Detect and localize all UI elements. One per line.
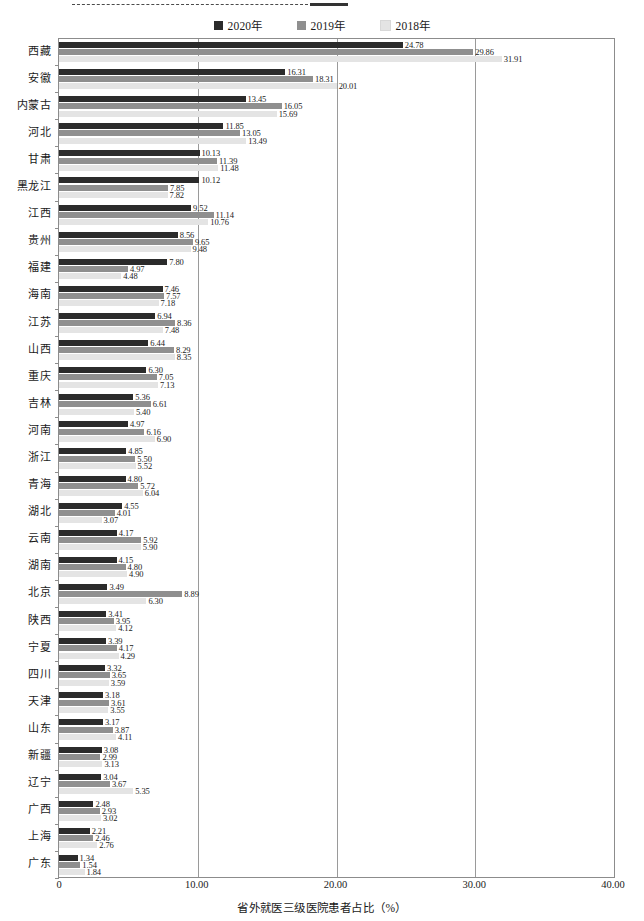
bar-value-label: 9.48 [193, 245, 207, 254]
y-axis-labels: 西藏安徽内蒙古河北甘肃黑龙江江西贵州福建海南江苏山西重庆吉林河南浙江青海湖北云南… [0, 38, 55, 878]
bar-内蒙古-2019年 [59, 103, 282, 109]
bar-贵州-2019年 [59, 239, 193, 245]
bar-value-label: 15.69 [279, 110, 298, 119]
y-axis-label-广西: 广西 [28, 804, 51, 815]
bar-浙江-2020年 [59, 448, 126, 454]
bar-陕西-2019年 [59, 618, 114, 624]
bar-新疆-2019年 [59, 754, 100, 760]
table-row: 3.082.993.13 [59, 744, 614, 771]
legend-label: 2019年 [311, 17, 346, 33]
bar-value-label: 10.12 [201, 176, 220, 185]
legend-item-2020年: 2020年 [214, 17, 263, 33]
bar-西藏-2018年 [59, 56, 502, 62]
x-axis-tick-label: 20.00 [324, 879, 348, 890]
bar-浙江-2019年 [59, 456, 135, 462]
x-axis-tick-label: 0 [56, 879, 61, 890]
bar-内蒙古-2020年 [59, 96, 246, 102]
bar-辽宁-2018年 [59, 788, 133, 794]
table-row: 7.467.577.18 [59, 283, 614, 310]
y-axis-label-四川: 四川 [28, 669, 51, 680]
table-row: 2.482.933.02 [59, 798, 614, 825]
table-row: 1.341.541.84 [59, 852, 614, 879]
x-axis-tick-label: 10.00 [185, 879, 209, 890]
bar-甘肃-2020年 [59, 150, 200, 156]
y-axis-label-广东: 广东 [28, 858, 51, 869]
y-axis-label-河南: 河南 [28, 425, 51, 436]
bar-河北-2020年 [59, 123, 223, 129]
y-axis-label-甘肃: 甘肃 [28, 154, 51, 165]
y-axis-label-安徽: 安徽 [28, 73, 51, 84]
bar-西藏-2020年 [59, 42, 403, 48]
y-axis-label-天津: 天津 [28, 696, 51, 707]
bar-value-label: 5.40 [136, 408, 150, 417]
y-axis-label-北京: 北京 [28, 587, 51, 598]
bar-广西-2018年 [59, 815, 101, 821]
bar-value-label: 7.18 [161, 299, 175, 308]
y-axis-label-重庆: 重庆 [28, 371, 51, 382]
bar-山东-2018年 [59, 734, 116, 740]
bar-甘肃-2019年 [59, 158, 217, 164]
bar-北京-2019年 [59, 591, 182, 597]
bar-value-label: 7.48 [165, 326, 179, 335]
table-row: 3.394.174.29 [59, 635, 614, 662]
table-row: 3.183.613.55 [59, 689, 614, 716]
y-axis-label-福建: 福建 [28, 262, 51, 273]
bar-湖南-2018年 [59, 571, 127, 577]
bar-value-label: 10.76 [210, 218, 229, 227]
bar-山东-2019年 [59, 727, 113, 733]
bar-rows: 24.7829.8631.9116.3118.3120.0113.4516.05… [59, 39, 614, 877]
bar-江西-2020年 [59, 205, 191, 211]
table-row: 6.448.298.35 [59, 337, 614, 364]
bar-四川-2018年 [59, 680, 109, 686]
table-row: 3.173.874.11 [59, 716, 614, 743]
bar-value-label: 5.52 [138, 462, 152, 471]
bar-value-label: 2.76 [99, 841, 113, 850]
table-row: 9.5211.1410.76 [59, 202, 614, 229]
x-axis-tick-label: 30.00 [462, 879, 486, 890]
bar-天津-2019年 [59, 700, 109, 706]
bar-江苏-2018年 [59, 327, 163, 333]
y-axis-label-内蒙古: 内蒙古 [17, 100, 51, 111]
bar-安徽-2019年 [59, 76, 313, 82]
bar-value-label: 4.29 [121, 652, 135, 661]
bar-value-label: 6.90 [157, 435, 171, 444]
bar-福建-2018年 [59, 273, 121, 279]
bar-宁夏-2018年 [59, 653, 119, 659]
table-row: 4.554.013.07 [59, 500, 614, 527]
bar-value-label: 31.91 [504, 55, 523, 64]
bar-湖北-2020年 [59, 503, 122, 509]
y-axis-label-湖南: 湖南 [28, 560, 51, 571]
bar-广东-2020年 [59, 855, 78, 861]
bar-value-label: 4.90 [129, 570, 143, 579]
bar-value-label: 6.61 [153, 400, 167, 409]
bar-云南-2020年 [59, 530, 117, 536]
bar-天津-2018年 [59, 707, 108, 713]
bar-辽宁-2019年 [59, 781, 110, 787]
y-axis-label-上海: 上海 [28, 831, 51, 842]
y-axis-label-湖北: 湖北 [28, 506, 51, 517]
table-row: 6.307.057.13 [59, 364, 614, 391]
y-axis-label-吉林: 吉林 [28, 398, 51, 409]
bar-上海-2018年 [59, 842, 97, 848]
table-row: 13.4516.0515.69 [59, 93, 614, 120]
bar-重庆-2020年 [59, 367, 146, 373]
bar-黑龙江-2018年 [59, 192, 168, 198]
legend-swatch-icon [297, 21, 306, 30]
table-row: 6.948.367.48 [59, 310, 614, 337]
bar-青海-2019年 [59, 483, 138, 489]
bar-上海-2020年 [59, 828, 90, 834]
bar-河北-2018年 [59, 138, 246, 144]
bar-浙江-2018年 [59, 463, 136, 469]
y-axis-label-江苏: 江苏 [28, 317, 51, 328]
bar-陕西-2020年 [59, 611, 106, 617]
bar-海南-2018年 [59, 300, 159, 306]
bar-value-label: 3.02 [103, 814, 117, 823]
bar-广西-2020年 [59, 801, 93, 807]
bar-青海-2020年 [59, 476, 126, 482]
bar-河南-2019年 [59, 429, 144, 435]
bar-山西-2018年 [59, 354, 175, 360]
bar-value-label: 5.90 [143, 543, 157, 552]
y-axis-label-西藏: 西藏 [28, 46, 51, 57]
table-row: 3.498.896.30 [59, 581, 614, 608]
table-row: 7.804.974.48 [59, 256, 614, 283]
